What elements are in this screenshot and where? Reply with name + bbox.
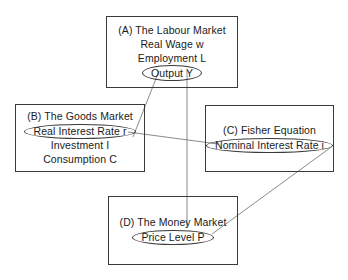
node-c-variable-wrapper: Nominal Interest Rate i	[206, 138, 333, 154]
node-a-line-1: (A) The Labour Market	[118, 23, 226, 37]
node-goods-market[interactable]: (B) The Goods Market Real Interest Rate …	[15, 104, 145, 172]
node-money-market[interactable]: (D) The Money Market Price Level P	[108, 196, 238, 265]
node-a-line-2: Real Wage w	[140, 37, 203, 51]
node-b-line-4: Consumption C	[43, 153, 117, 167]
node-d-variable-wrapper: Price Level P	[132, 230, 213, 246]
node-a-variable-wrapper: Output Y	[142, 65, 202, 81]
node-c-line-1: (C) Fisher Equation	[223, 124, 316, 138]
circled-variable-nominal-interest-rate: Nominal Interest Rate i	[206, 138, 333, 153]
node-b-line-3: Investment I	[51, 139, 109, 153]
circled-variable-output-y: Output Y	[142, 66, 202, 81]
node-fisher-equation[interactable]: (C) Fisher Equation Nominal Interest Rat…	[205, 105, 334, 172]
node-b-line-1: (B) The Goods Market	[27, 110, 133, 124]
node-b-variable-wrapper: Real Interest Rate r	[24, 124, 135, 140]
node-d-line-1: (D) The Money Market	[120, 216, 227, 230]
circled-variable-price-level: Price Level P	[132, 230, 213, 245]
diagram-canvas: (A) The Labour Market Real Wage w Employ…	[0, 0, 348, 280]
circled-variable-real-interest-rate: Real Interest Rate r	[24, 124, 135, 139]
node-labour-market[interactable]: (A) The Labour Market Real Wage w Employ…	[106, 16, 238, 88]
node-a-line-3: Employment L	[138, 51, 206, 65]
